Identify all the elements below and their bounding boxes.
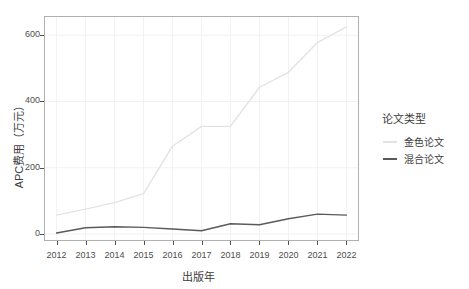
plot-panel: [44, 16, 359, 241]
x-tick-mark: [86, 241, 87, 245]
y-tick-label: 0: [6, 229, 40, 238]
y-tick-mark: [40, 101, 44, 102]
legend-item-label: 金色论文: [404, 134, 444, 149]
legend-color-swatch: [383, 141, 397, 143]
y-axis-ticks: 0200400600: [0, 0, 40, 289]
legend-item-label: 混合论文: [404, 151, 444, 166]
legend-color-swatch: [383, 158, 397, 160]
x-tick-mark: [57, 241, 58, 245]
x-axis-title: 出版年: [38, 268, 358, 284]
x-tick-mark: [115, 241, 116, 245]
legend-title: 论文类型: [382, 110, 467, 126]
y-tick-mark: [40, 234, 44, 235]
x-tick-mark: [230, 241, 231, 245]
y-tick-label: 200: [6, 163, 40, 172]
legend-key-icon: [382, 152, 398, 166]
x-tick-mark: [288, 241, 289, 245]
line-chart: APC费用（万元） 0200400600 2012201320142015201…: [0, 0, 469, 289]
y-tick-label: 600: [6, 30, 40, 39]
gridlines: [45, 17, 358, 240]
x-tick-mark: [144, 241, 145, 245]
x-tick-mark: [317, 241, 318, 245]
x-tick-label: 2022: [326, 250, 366, 260]
legend-item-2[interactable]: 混合论文: [382, 150, 467, 167]
x-tick-mark: [202, 241, 203, 245]
legend: 论文类型 金色论文混合论文: [382, 110, 467, 167]
y-tick-mark: [40, 35, 44, 36]
legend-item-1[interactable]: 金色论文: [382, 133, 467, 150]
y-tick-mark: [40, 168, 44, 169]
y-tick-label: 400: [6, 96, 40, 105]
x-tick-mark: [346, 241, 347, 245]
plot-area: [45, 17, 358, 240]
legend-key-icon: [382, 135, 398, 149]
legend-items: 金色论文混合论文: [382, 133, 467, 167]
x-tick-mark: [259, 241, 260, 245]
x-tick-mark: [173, 241, 174, 245]
